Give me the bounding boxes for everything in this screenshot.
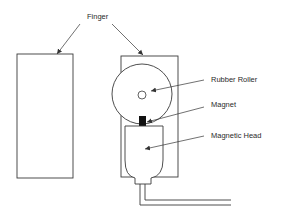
left-finger [17,54,73,178]
finger-arrow-right [112,24,143,55]
label-finger: Finger [87,12,109,21]
magnet [139,116,146,126]
roller-axle [138,91,146,99]
magnetic-head [125,126,163,184]
label-magnet: Magnet [211,100,237,109]
label-rubber-roller: Rubber Roller [211,75,258,84]
finger-arrow-left [57,24,80,54]
head-wire-lower [140,184,231,205]
head-wire-upper [145,184,231,200]
finger-mechanism-diagram: Finger Rubber Roller Magnet Magnetic Hea… [0,0,284,213]
label-magnetic-head: Magnetic Head [211,131,261,140]
